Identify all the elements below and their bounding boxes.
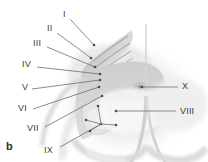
internal-pointer-2 bbox=[86, 120, 101, 124]
leader-endpoint-VI bbox=[98, 86, 101, 89]
leader-line-IV bbox=[37, 67, 100, 74]
internal-pointer-4 bbox=[101, 124, 116, 125]
leader-endpoint-II bbox=[90, 57, 93, 60]
leader-endpoint-IV bbox=[99, 73, 102, 76]
internal-pointer-tip-1 bbox=[97, 105, 100, 108]
leader-endpoint-III bbox=[94, 66, 97, 69]
leader-endpoint-VIII bbox=[115, 110, 118, 113]
leader-line-I bbox=[70, 19, 94, 45]
label-III: III bbox=[33, 39, 41, 48]
internal-pointer-tip-4 bbox=[115, 124, 118, 127]
internal-pointer-tip-3 bbox=[89, 130, 92, 133]
leader-line-III bbox=[47, 47, 95, 67]
leader-endpoint-V bbox=[99, 79, 102, 82]
label-VII: VII bbox=[27, 124, 39, 133]
label-I: I bbox=[63, 10, 66, 19]
label-IX: IX bbox=[44, 146, 53, 155]
internal-pointer-tip-2 bbox=[85, 119, 88, 122]
label-VI: VI bbox=[18, 104, 27, 113]
label-X: X bbox=[182, 82, 188, 91]
figure-panel: I II III IV V VI VII IX X VIII b bbox=[0, 0, 208, 162]
internal-pointer-1 bbox=[98, 106, 101, 124]
leader-line-V bbox=[32, 80, 100, 89]
leader-endpoint-I bbox=[93, 44, 96, 47]
internal-pointer-3 bbox=[90, 124, 101, 131]
leader-line-VI bbox=[33, 87, 99, 109]
label-II: II bbox=[47, 24, 52, 33]
panel-letter: b bbox=[6, 140, 13, 152]
label-IV: IV bbox=[22, 60, 31, 69]
label-VIII: VIII bbox=[180, 107, 194, 116]
leader-lines-layer bbox=[0, 0, 208, 162]
label-V: V bbox=[22, 83, 28, 92]
leader-endpoint-VII bbox=[101, 95, 104, 98]
leader-endpoint-X bbox=[141, 86, 144, 89]
